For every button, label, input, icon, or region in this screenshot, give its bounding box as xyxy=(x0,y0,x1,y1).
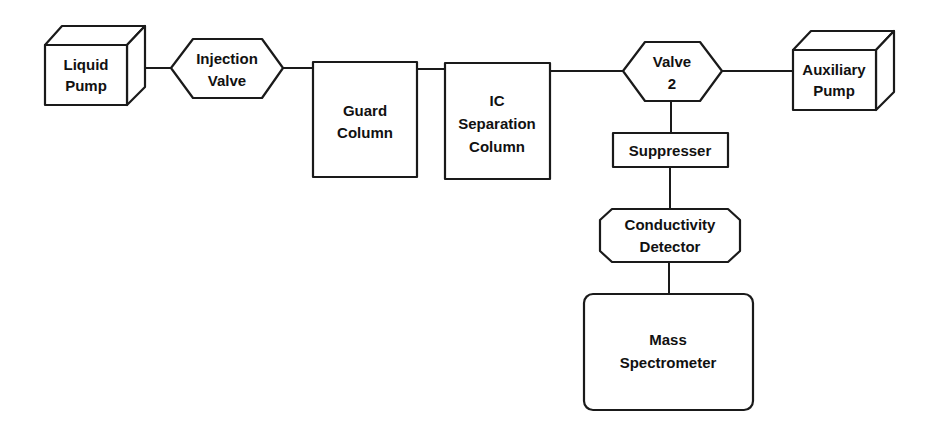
node-label: Spectrometer xyxy=(620,354,717,371)
node-label: Liquid xyxy=(64,56,109,73)
node-guard-column: Guard Column xyxy=(313,62,417,177)
node-label: Auxiliary xyxy=(802,61,866,78)
node-label: Pump xyxy=(813,82,855,99)
node-label: Injection xyxy=(196,50,258,67)
hexagon-shape xyxy=(623,42,722,101)
node-ic-separation-column: IC Separation Column xyxy=(445,63,550,179)
node-injection-valve: Injection Valve xyxy=(171,39,283,98)
node-mass-spectrometer: Mass Spectrometer xyxy=(584,294,753,410)
node-conductivity-detector: Conductivity Detector xyxy=(600,209,740,262)
node-label: Suppresser xyxy=(629,142,712,159)
hexagon-shape xyxy=(171,39,283,98)
rounded-rectangle-shape xyxy=(584,294,753,410)
node-label: 2 xyxy=(668,75,676,92)
node-label: IC xyxy=(490,92,505,109)
node-label: Detector xyxy=(640,238,701,255)
node-label: Column xyxy=(469,138,525,155)
ic-ms-flow-diagram: Liquid Pump Injection Valve Guard Column… xyxy=(0,0,935,426)
node-label: Valve xyxy=(653,53,691,70)
node-label: Pump xyxy=(65,77,107,94)
node-label: Valve xyxy=(208,72,246,89)
rectangle-shape xyxy=(313,62,417,177)
node-label: Guard xyxy=(343,102,387,119)
node-label: Column xyxy=(337,124,393,141)
node-label: Conductivity xyxy=(625,216,716,233)
node-label: Mass xyxy=(649,331,687,348)
node-suppresser: Suppresser xyxy=(613,133,728,167)
cube-front-face xyxy=(45,45,127,105)
cube-front-face xyxy=(793,50,876,110)
node-liquid-pump: Liquid Pump xyxy=(45,26,145,105)
node-valve-2: Valve 2 xyxy=(623,42,722,101)
node-auxiliary-pump: Auxiliary Pump xyxy=(793,31,894,110)
node-label: Separation xyxy=(458,115,536,132)
